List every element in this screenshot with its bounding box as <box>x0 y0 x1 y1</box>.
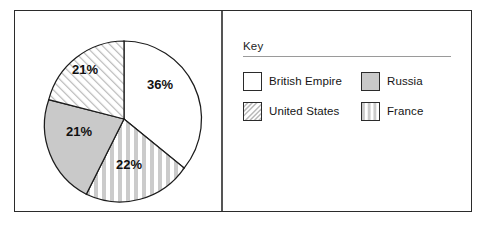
swatch-vertical-stripes-icon <box>361 102 380 121</box>
legend-label-russia: Russia <box>387 75 423 87</box>
pie-label-british-empire: 36% <box>147 77 173 92</box>
legend-item-france: France <box>361 102 455 121</box>
chart-legend: Key British Empire Russia <box>243 40 455 126</box>
legend-label-united-states: United States <box>269 105 339 117</box>
legend-grid: British Empire Russia <box>243 66 455 126</box>
legend-label-british-empire: British Empire <box>269 75 342 87</box>
legend-item-united-states: United States <box>243 102 361 121</box>
legend-title: Key <box>243 40 455 56</box>
pie-label-russia: 21% <box>66 124 92 139</box>
swatch-solid-white-icon <box>243 72 262 91</box>
swatch-diagonal-hatch-icon <box>243 102 262 121</box>
legend-label-france: France <box>387 105 423 117</box>
chart-figure: 36% 22% 21% 21% Key British Empire Russi… <box>0 0 486 229</box>
pie-chart <box>46 41 202 197</box>
swatch-solid-gray-icon <box>361 72 380 91</box>
panel-divider <box>221 11 223 211</box>
pie-label-united-states: 21% <box>72 62 98 77</box>
legend-item-british-empire: British Empire <box>243 72 361 91</box>
legend-title-rule <box>243 56 451 57</box>
pie-label-france: 22% <box>116 157 142 172</box>
legend-item-russia: Russia <box>361 72 455 91</box>
